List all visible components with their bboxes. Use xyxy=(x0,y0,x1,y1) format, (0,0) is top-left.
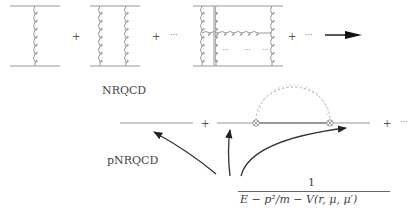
formula-denominator: E − p²/m − V(r, μ, μ′) xyxy=(240,193,357,206)
propagator-arrows xyxy=(154,128,346,176)
ellipsis: ··· xyxy=(305,31,313,40)
ellipsis: ··· xyxy=(170,31,178,40)
gluon-line xyxy=(34,6,38,66)
ladder-diagram-3 xyxy=(193,6,283,66)
ellipsis: ··· xyxy=(400,118,408,127)
ladder-diagram-2 xyxy=(90,6,140,66)
ladder-diagram-1 xyxy=(10,6,60,66)
plus-sign: + xyxy=(72,31,80,42)
plus-sign: + xyxy=(288,31,296,42)
svg-text:···: ··· xyxy=(244,46,251,54)
pnrqcd-diagram xyxy=(120,85,370,126)
fraction-bar xyxy=(238,191,390,192)
nrqcd-label: NRQCD xyxy=(102,84,146,97)
formula-numerator: 1 xyxy=(308,176,315,189)
diagram-canvas: + + ··· ··· ··· ··· + ··· + xyxy=(0,0,419,220)
plus-sign: + xyxy=(383,118,391,129)
svg-text:···: ··· xyxy=(222,46,229,54)
pnrqcd-label: pNRQCD xyxy=(107,154,158,167)
right-arrow-icon xyxy=(325,31,362,39)
svg-text:···: ··· xyxy=(262,46,269,54)
plus-sign: + xyxy=(152,31,160,42)
plus-sign: + xyxy=(201,118,209,129)
